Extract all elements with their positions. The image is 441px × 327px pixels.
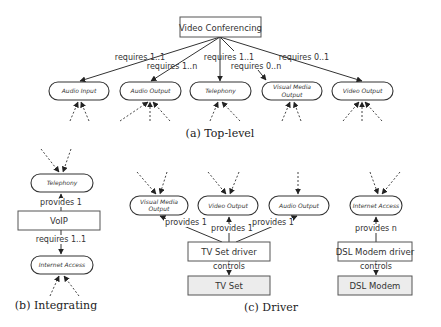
video-output-label: Video Output bbox=[343, 87, 383, 95]
visual-media-output-label-1: Visual Media bbox=[273, 83, 311, 90]
integrating-diagram: Telephony provides 1 VoIP requires 1..1 … bbox=[15, 149, 100, 312]
telephony-label: Telephony bbox=[205, 87, 236, 95]
video-output-label-c: Video Output bbox=[208, 202, 248, 210]
driver-diagram: Visual Media Output Video Output Audio O… bbox=[130, 172, 415, 314]
audio-output-label-c: Audio Output bbox=[278, 202, 319, 210]
caption-driver: (c) Driver bbox=[244, 301, 299, 314]
voip-label: VoIP bbox=[50, 216, 68, 226]
dsl-modem-driver-label: DSL Modem driver bbox=[336, 247, 415, 257]
edge-label-video-output: requires 0..1 bbox=[279, 53, 329, 62]
edge-label-provides-video: provides 1 bbox=[211, 224, 253, 233]
dsl-modem-label: DSL Modem bbox=[350, 281, 401, 291]
internet-access-label-b: Internet Access bbox=[39, 261, 85, 268]
edge-label-audio-input: requires 1..1 bbox=[115, 53, 165, 62]
audio-output-label: Audio Output bbox=[130, 87, 171, 95]
video-conferencing-label: Video Conferencing bbox=[179, 23, 262, 33]
edge-label-audio-output: requires 1..n bbox=[147, 62, 197, 71]
incoming-dotted-edges-top bbox=[70, 102, 382, 121]
edge-label-visual-media: requires 0..n bbox=[231, 62, 281, 71]
audio-input-label: Audio Input bbox=[61, 87, 97, 95]
tv-set-driver-label: TV Set driver bbox=[200, 247, 257, 257]
edge-label-controls-dsl: controls bbox=[360, 262, 392, 271]
caption-integrating: (b) Integrating bbox=[15, 299, 97, 312]
edge-label-provides-audio: provides 1 bbox=[252, 218, 294, 227]
edge-visual-media-b bbox=[258, 70, 266, 80]
feature-diagram: requires 1..1 requires 1..n requires 1..… bbox=[0, 0, 441, 327]
edge-label-provides: provides 1 bbox=[40, 198, 82, 207]
edge-label-controls-tv: controls bbox=[213, 262, 245, 271]
visual-media-output-label-2: Output bbox=[282, 91, 303, 99]
visual-media-output-label-c1: Visual Media bbox=[140, 198, 178, 205]
edge-label-provides-n: provides n bbox=[355, 224, 397, 233]
tv-set-label: TV Set bbox=[214, 281, 243, 291]
telephony-label-b: Telephony bbox=[47, 179, 78, 187]
top-level-diagram: requires 1..1 requires 1..n requires 1..… bbox=[49, 17, 393, 140]
edge-label-telephony: requires 1..1 bbox=[204, 53, 254, 62]
edge-label-requires: requires 1..1 bbox=[36, 235, 86, 244]
edge-label-provides-visual: provides 1 bbox=[165, 218, 207, 227]
caption-top-level: (a) Top-level bbox=[186, 127, 255, 140]
visual-media-output-label-c2: Output bbox=[149, 205, 170, 213]
internet-access-label-c: Internet Access bbox=[353, 202, 399, 209]
